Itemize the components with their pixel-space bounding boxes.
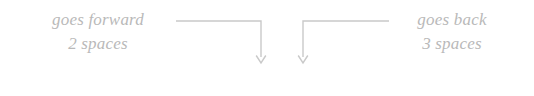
expression-left-operand: 2 xyxy=(247,93,260,96)
annotated-expression-figure: goes forward 2 spaces goes back 3 spaces… xyxy=(0,0,534,96)
expression-space-1 xyxy=(260,93,273,96)
leader-left-elbow xyxy=(176,21,261,57)
leader-right-elbow xyxy=(303,21,389,57)
expression: 2 − 3 xyxy=(0,62,534,96)
expression-space-2 xyxy=(287,93,300,96)
expression-right-operand: 3 xyxy=(299,93,312,96)
expression-operator: − xyxy=(272,93,286,96)
